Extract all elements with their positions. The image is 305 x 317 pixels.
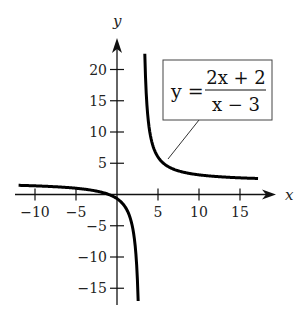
annotation-pointer: [168, 120, 199, 159]
y-tick-label: 5: [98, 155, 107, 171]
x-tick-label: −10: [20, 204, 50, 220]
y-tick-label: 15: [89, 93, 107, 109]
x-tick-label: 5: [154, 204, 163, 220]
rational-function-graph: −10−5510152015105−5−10−15 y = 2x + 2 x −…: [0, 0, 305, 317]
formula-denominator: x − 3: [212, 94, 260, 115]
x-tick-label: 15: [231, 204, 249, 220]
y-tick-label: 10: [89, 124, 107, 140]
y-tick-label: 20: [89, 62, 107, 78]
x-tick-label: 10: [190, 204, 208, 220]
y-tick-label: −10: [77, 249, 107, 265]
x-axis-label: x: [285, 186, 294, 204]
formula-annotation: y = 2x + 2 x − 3: [163, 60, 272, 159]
formula-numerator: 2x + 2: [206, 67, 266, 88]
y-axis-label: y: [112, 12, 122, 30]
formula-lhs: y =: [170, 80, 204, 102]
x-tick-label: −5: [66, 204, 87, 220]
y-tick-label: −15: [77, 280, 107, 296]
y-tick-label: −5: [86, 218, 107, 234]
